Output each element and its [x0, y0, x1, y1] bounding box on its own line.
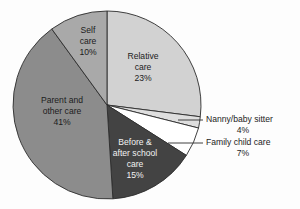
slice-label-parent-other-care-line2: other care — [43, 106, 82, 116]
slice-label-relative-care-percent: 23% — [134, 73, 152, 83]
slice-label-before-after-school-care-line3: care — [127, 159, 144, 169]
slice-label-self-care-percent: 10% — [79, 47, 97, 57]
slice-label-before-after-school-care-line2: after school — [113, 148, 158, 158]
pie-chart-figure: Relative care 23% Self care 10% Parent a… — [0, 0, 300, 209]
callout-percent-nanny-baby-sitter: 4% — [237, 125, 250, 135]
slice-label-self-care-line1: Self — [81, 25, 96, 35]
slice-label-parent-other-care-percent: 41% — [53, 117, 71, 127]
slice-label-before-after-school-care-percent: 15% — [126, 170, 144, 180]
slice-label-relative-care-line1: Relative — [127, 51, 158, 61]
callout-percent-family-child-care: 7% — [237, 148, 250, 158]
pie-slice-relative-care[interactable] — [107, 11, 201, 117]
slice-label-parent-other-care-line1: Parent and — [41, 95, 83, 105]
callout-label-family-child-care: Family child care — [206, 137, 271, 147]
slice-label-relative-care-line2: care — [135, 62, 152, 72]
callout-label-nanny-baby-sitter: Nanny/baby sitter — [206, 114, 273, 124]
pie-chart-svg: Relative care 23% Self care 10% Parent a… — [0, 0, 300, 209]
slice-label-before-after-school-care-line1: Before & — [118, 137, 152, 147]
slice-label-self-care-line2: care — [80, 36, 97, 46]
